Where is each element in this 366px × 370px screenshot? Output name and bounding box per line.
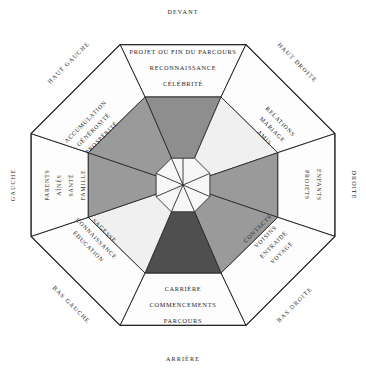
direction-label-droite: DROITE <box>351 170 357 199</box>
direction-label-haut-droite: HAUT DROITE <box>276 42 318 84</box>
core-octagon-group <box>156 158 210 212</box>
keyword-devant-3: CÉLÉBRITÉ <box>163 80 203 87</box>
keyword-arriere-2: COMMENCEMENTS <box>150 301 217 308</box>
keyword-gauche-4: FAMILLE <box>80 170 86 201</box>
keyword-arriere-1: CARRIÈRE <box>165 285 202 292</box>
direction-label-gauche: GAUCHE <box>10 169 16 201</box>
keyword-gauche-3: SANTÉ <box>67 173 74 196</box>
keyword-droite-1: ENFANTS <box>316 169 322 201</box>
keyword-devant-1: PROJET OU FIN DU PARCOURS <box>129 48 236 55</box>
keyword-gauche-2: AÎNÉS <box>55 174 62 195</box>
bagua-diagram: DEVANT HAUT DROITE DROITE BAS DROITE ARR… <box>0 0 366 370</box>
keyword-gauche-1: PARENTS <box>44 169 50 200</box>
keyword-devant-2: RECONNAISSANCE <box>150 64 216 71</box>
direction-label-bas-droite: BAS DROITE <box>276 286 314 324</box>
direction-label-haut-gauche: HAUT GAUCHE <box>47 41 91 85</box>
bagua-svg: DEVANT HAUT DROITE DROITE BAS DROITE ARR… <box>0 0 366 370</box>
keyword-droite-2: PROJETS <box>304 170 310 200</box>
direction-label-arriere: ARRIÈRE <box>166 355 200 362</box>
direction-label-devant: DEVANT <box>167 9 198 15</box>
keyword-arriere-3: PARCOURS <box>164 317 202 324</box>
